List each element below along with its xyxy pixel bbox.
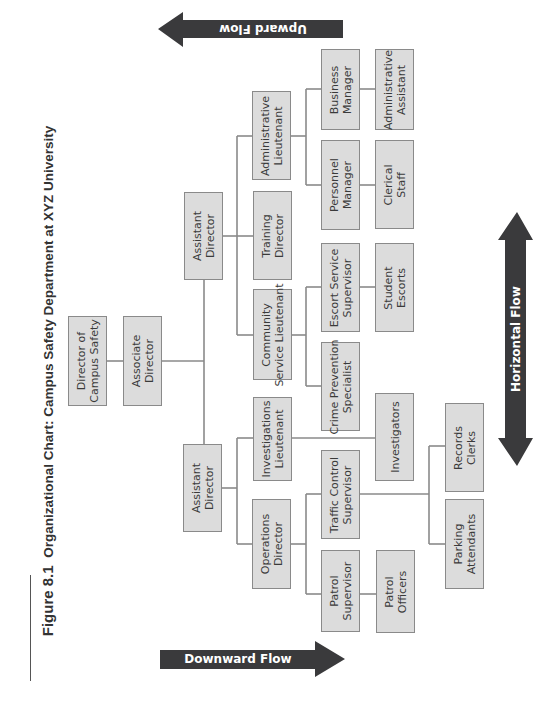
upward-flow-label: Upward Flow — [219, 22, 307, 36]
node-label: Director of Campus Safety — [75, 319, 101, 403]
figure-number: Figure 8.1 — [39, 565, 56, 636]
node-label: Clerical Staff — [382, 164, 408, 205]
node-assistant-director-b: Assistant Director — [183, 444, 222, 532]
node-clerical-staff: Clerical Staff — [375, 140, 414, 229]
node-investigators: Investigators — [375, 393, 414, 481]
node-crime-prevention-specialist: Crime Prevention Specialist — [321, 342, 360, 431]
node-administrative-assistant: Administrative Assistant — [375, 49, 414, 130]
node-parking-attendants: Parking Attendants — [445, 499, 484, 589]
node-label: Training Director — [260, 213, 286, 257]
figure-caption: Figure 8.1 Organizational Chart: Campus … — [39, 126, 56, 636]
node-label: Personnel Manager — [328, 158, 354, 212]
node-investigations-lieutenant: Investigations Lieutenant — [253, 397, 292, 481]
node-student-escorts: Student Escorts — [375, 243, 414, 332]
node-patrol-supervisor: Patrol Supervisor — [321, 550, 360, 632]
node-label: Administrative Assistant — [382, 49, 408, 129]
node-community-service-lieutenant: Community Service Lieutenant — [253, 289, 292, 380]
figure-title: Organizational Chart: Campus Safety Depa… — [41, 126, 56, 558]
node-associate-director: Associate Director — [123, 316, 162, 406]
node-patrol-officers: Patrol Officers — [376, 550, 415, 633]
node-training-director: Training Director — [253, 191, 292, 280]
node-label: Patrol Supervisor — [328, 562, 354, 621]
node-label: Escort Service Supervisor — [328, 248, 354, 326]
horizontal-flow-label: Horizontal Flow — [509, 286, 523, 392]
node-label: Investigations Lieutenant — [260, 400, 286, 477]
node-business-manager: Business Manager — [321, 49, 360, 130]
node-records-clerks: Records Clerks — [445, 403, 484, 492]
org-chart-figure: Upward Flow Downward Flow Horizontal Flo… — [0, 0, 557, 711]
node-label: Parking Attendants — [452, 514, 478, 574]
node-label: Operations Director — [259, 514, 285, 574]
title-rule — [30, 575, 31, 681]
node-label: Assistant Director — [190, 463, 216, 513]
node-label: Community Service Lieutenant — [260, 283, 286, 386]
node-personnel-manager: Personnel Manager — [321, 140, 360, 230]
node-label: Assistant Director — [191, 211, 217, 261]
node-label: Administrative Lieutenant — [259, 95, 285, 175]
node-label: Associate Director — [130, 335, 156, 388]
node-label: Records Clerks — [452, 426, 478, 470]
node-label: Business Manager — [328, 65, 354, 114]
node-label: Crime Prevention Specialist — [328, 339, 354, 434]
downward-flow-label: Downward Flow — [184, 652, 291, 666]
node-assistant-director-a: Assistant Director — [184, 192, 223, 280]
node-operations-director: Operations Director — [252, 499, 291, 589]
node-label: Patrol Officers — [383, 570, 409, 612]
node-label: Student Escorts — [382, 266, 408, 309]
node-label: Investigators — [388, 401, 401, 473]
node-director: Director of Campus Safety — [68, 316, 107, 406]
node-traffic-control-supervisor: Traffic Control Supervisor — [321, 450, 360, 539]
node-label: Traffic Control Supervisor — [328, 456, 354, 532]
node-escort-service-supervisor: Escort Service Supervisor — [321, 243, 360, 332]
node-administrative-lieutenant: Administrative Lieutenant — [252, 91, 291, 180]
